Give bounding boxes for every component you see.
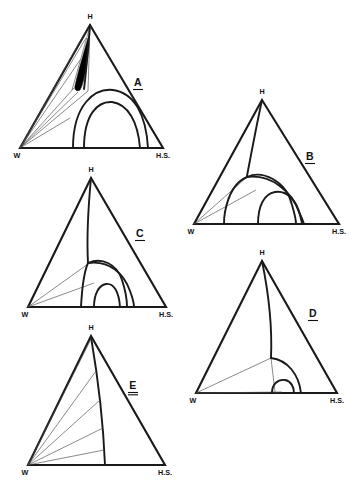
panel-e: H W H.S. E bbox=[22, 323, 172, 477]
vertex-label-e-right: H.S. bbox=[158, 468, 172, 477]
outer-arc-c-left bbox=[81, 263, 88, 307]
panel-letter-e: E bbox=[129, 379, 136, 391]
vertex-label-b-left: W bbox=[188, 227, 195, 236]
vertex-label-b-apex: H bbox=[259, 87, 264, 96]
triangle-outline-e bbox=[28, 336, 165, 465]
vertex-label-a-right: H.S. bbox=[156, 151, 170, 160]
tie-line-e-5 bbox=[28, 450, 104, 465]
tie-line-e-4 bbox=[28, 428, 103, 465]
vertex-label-d-right: H.S. bbox=[330, 396, 344, 405]
panel-c: H W H.S. C bbox=[22, 165, 173, 319]
apex-boundary-curve-b bbox=[247, 100, 262, 176]
tie-line-a-4 bbox=[20, 88, 74, 148]
vertex-label-b-right: H.S. bbox=[332, 227, 346, 236]
inner-arc-c bbox=[94, 284, 120, 307]
vertex-label-d-apex: H bbox=[259, 248, 264, 257]
vertex-label-a-apex: H bbox=[87, 12, 92, 21]
inner-arc-a bbox=[84, 102, 140, 148]
tie-line-a-3 bbox=[20, 60, 80, 148]
tie-line-e-3 bbox=[28, 400, 100, 465]
outer-arc-b-foot bbox=[224, 212, 225, 224]
vertex-label-a-left: W bbox=[14, 151, 21, 160]
vertex-label-c-apex: H bbox=[88, 165, 93, 174]
tie-line-b-1 bbox=[194, 177, 247, 224]
tie-line-e-2 bbox=[28, 371, 96, 465]
apex-boundary-curve-c bbox=[88, 178, 91, 263]
figure-root: H W H.S. A H W bbox=[0, 0, 354, 485]
tie-line-e-1 bbox=[28, 339, 91, 465]
panel-letter-a: A bbox=[134, 76, 142, 88]
triangle-outline-b bbox=[194, 100, 339, 224]
panel-d: H W H.S. D bbox=[190, 248, 344, 405]
outer-arc-b bbox=[247, 175, 296, 224]
ternary-diagram-set: H W H.S. A H W bbox=[0, 0, 354, 485]
vertex-label-c-right: H.S. bbox=[159, 310, 173, 319]
outer-arc-b-left bbox=[225, 177, 247, 212]
large-arc-d bbox=[271, 358, 301, 393]
tie-line-a-2 bbox=[20, 38, 86, 148]
panel-a: H W H.S. A bbox=[14, 12, 170, 160]
vertex-label-e-left: W bbox=[22, 468, 29, 477]
tie-line-d-1 bbox=[196, 358, 271, 393]
panel-b: H W H.S. B bbox=[188, 87, 346, 236]
tie-line-c-1 bbox=[28, 264, 88, 307]
vertex-label-c-left: W bbox=[22, 310, 29, 319]
vertex-label-d-left: W bbox=[190, 396, 197, 405]
vertex-label-e-apex: H bbox=[88, 323, 93, 332]
panel-letter-c: C bbox=[136, 227, 144, 239]
triangle-outline-c bbox=[28, 178, 166, 307]
tie-line-a-5 bbox=[20, 92, 78, 148]
panel-letter-b: B bbox=[306, 150, 314, 162]
panel-letter-d: D bbox=[309, 307, 317, 319]
small-semicircle-d bbox=[272, 380, 294, 393]
